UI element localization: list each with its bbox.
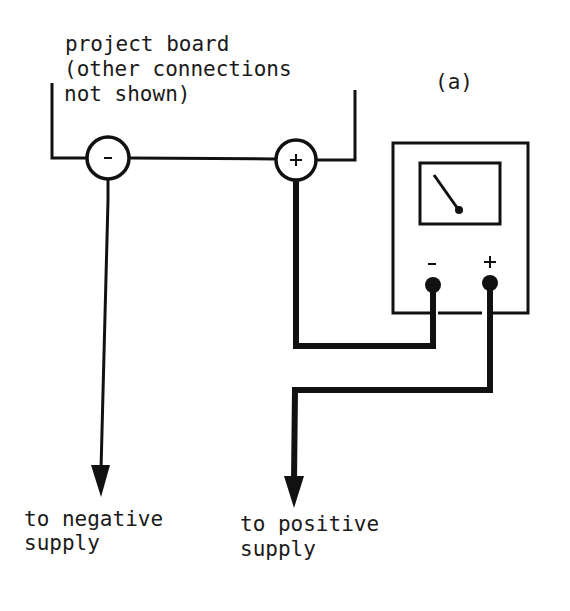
meter-face <box>420 163 500 224</box>
wire-board-to-meter <box>296 180 433 346</box>
panel-label: (a) <box>435 70 473 94</box>
positive-supply-wire <box>284 283 490 508</box>
negative-supply-label-line2: supply <box>24 531 100 555</box>
arrow-down-icon <box>91 465 110 497</box>
board-negative-terminal <box>87 137 129 179</box>
board-label-line2: (other connections <box>64 57 292 81</box>
meter <box>393 143 528 313</box>
board-label-line3: not shown) <box>64 82 190 106</box>
arrow-down-icon <box>284 476 304 508</box>
positive-supply-label-line2: supply <box>240 537 316 561</box>
negative-supply-label-line1: to negative <box>24 507 163 531</box>
board-label-line1: project board <box>65 32 229 56</box>
positive-supply-label-line1: to positive <box>240 512 379 536</box>
negative-supply-wire <box>91 179 110 497</box>
board-positive-terminal <box>276 140 316 180</box>
